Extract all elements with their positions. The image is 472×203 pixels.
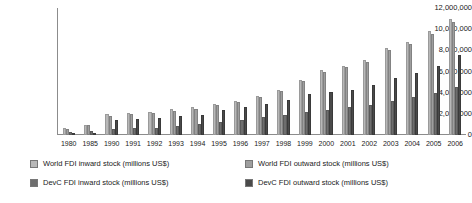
legend-item: World FDI inward stock (millions US$): [30, 154, 245, 173]
x-tick-label: 1980: [58, 138, 79, 149]
legend-item: DevC FDI outward stock (millions US$): [245, 173, 460, 192]
bar-group: [444, 8, 465, 135]
chart-legend: World FDI inward stock (millions US$)Wor…: [30, 154, 460, 192]
bar-group: [402, 8, 423, 135]
bar-group: [359, 8, 380, 135]
bar-group: [79, 8, 100, 135]
bar: [458, 55, 461, 135]
bar: [437, 66, 440, 135]
bar-group: [122, 8, 143, 135]
x-tick-label: 1985: [79, 138, 100, 149]
bar: [329, 92, 332, 135]
x-axis-tick-labels: 1980198519901991199219931994199519961997…: [58, 138, 466, 149]
x-tick-label: 1998: [273, 138, 294, 149]
legend-swatch-icon: [245, 160, 253, 168]
x-tick-label: 1993: [165, 138, 186, 149]
bar: [179, 116, 182, 135]
bar-group: [101, 8, 122, 135]
bar-group: [380, 8, 401, 135]
bar: [287, 100, 290, 135]
bar-group: [144, 8, 165, 135]
x-tick-label: 2002: [359, 138, 380, 149]
bar-groups: [58, 8, 466, 135]
bar-group: [423, 8, 444, 135]
x-tick-label: 2001: [337, 138, 358, 149]
plot-area: [58, 8, 466, 135]
bar-group: [208, 8, 229, 135]
bar-group: [337, 8, 358, 135]
bar: [415, 73, 418, 135]
bar: [201, 115, 204, 135]
x-tick-label: 2000: [316, 138, 337, 149]
x-tick-label: 1991: [122, 138, 143, 149]
bar: [265, 104, 268, 135]
bar: [158, 118, 161, 135]
bar-group: [165, 8, 186, 135]
bar: [308, 94, 311, 135]
legend-label: World FDI inward stock (millions US$): [43, 159, 169, 168]
bar: [115, 120, 118, 135]
x-tick-label: 1992: [144, 138, 165, 149]
bar: [244, 107, 247, 135]
bar: [394, 78, 397, 135]
bar-group: [273, 8, 294, 135]
x-tick-label: 2004: [402, 138, 423, 149]
legend-label: DevC FDI inward stock (millions US$): [43, 178, 168, 187]
x-tick-label: 2003: [380, 138, 401, 149]
legend-item: DevC FDI inward stock (millions US$): [30, 173, 245, 192]
legend-swatch-icon: [30, 160, 38, 168]
legend-label: DevC FDI outward stock (millions US$): [258, 178, 388, 187]
bar-group: [187, 8, 208, 135]
bar: [72, 133, 75, 135]
bar: [136, 119, 139, 135]
x-tick-label: 1999: [294, 138, 315, 149]
bar-group: [58, 8, 79, 135]
x-tick-label: 2006: [444, 138, 465, 149]
x-tick-label: 1994: [187, 138, 208, 149]
bar-group: [251, 8, 272, 135]
x-tick-label: 1990: [101, 138, 122, 149]
bar: [351, 90, 354, 136]
bar: [93, 133, 96, 135]
x-tick-label: 1996: [230, 138, 251, 149]
legend-swatch-icon: [245, 179, 253, 187]
bar: [372, 85, 375, 135]
bar: [222, 110, 225, 135]
legend-swatch-icon: [30, 179, 38, 187]
legend-label: World FDI outward stock (millions US$): [258, 159, 389, 168]
x-tick-label: 1997: [251, 138, 272, 149]
fdi-stock-bar-chart: 12,000,00010,000,0008,000,0006,000,0004,…: [0, 0, 472, 203]
bar-group: [316, 8, 337, 135]
bar-group: [294, 8, 315, 135]
x-tick-label: 2005: [423, 138, 444, 149]
legend-item: World FDI outward stock (millions US$): [245, 154, 460, 173]
bar-group: [230, 8, 251, 135]
x-tick-label: 1995: [208, 138, 229, 149]
